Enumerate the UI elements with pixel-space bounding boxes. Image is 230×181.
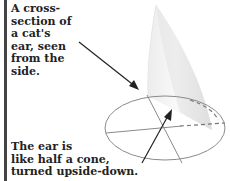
diagram-root: A cross- section of a cat's ear, seen fr… (0, 0, 230, 181)
horizontal-axis-line (106, 126, 182, 133)
cone-illustration (0, 0, 230, 181)
top-arrow (79, 42, 139, 90)
bottom-arrow (142, 109, 172, 163)
cone-shape (148, 5, 212, 130)
